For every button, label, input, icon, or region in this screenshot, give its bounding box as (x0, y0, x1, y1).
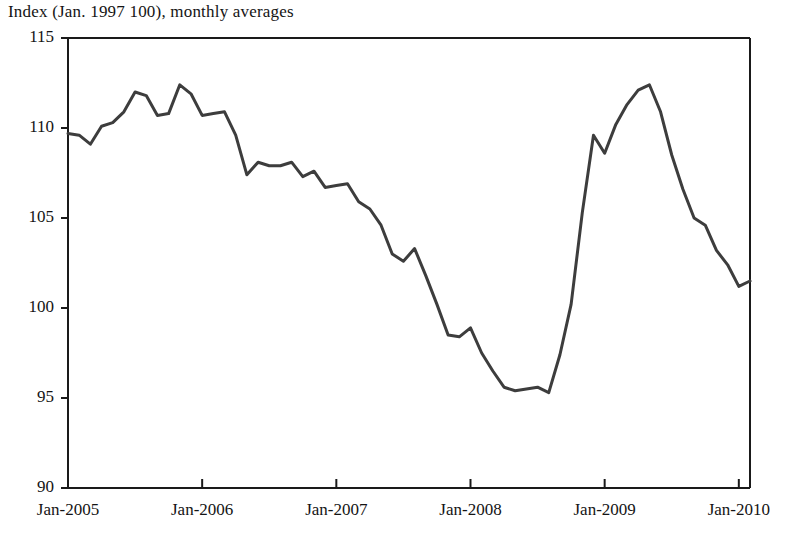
chart-plot-area (0, 0, 800, 536)
data-series-line (68, 85, 750, 393)
x-axis-tick-label: Jan-2008 (415, 500, 525, 520)
y-axis-tick-label: 90 (8, 477, 54, 497)
x-axis-tick-label: Jan-2009 (550, 500, 660, 520)
x-axis-tick-label: Jan-2010 (684, 500, 794, 520)
y-axis-tick-label: 105 (8, 207, 54, 227)
y-axis-tick-label: 95 (8, 387, 54, 407)
y-axis-tick-label: 100 (8, 297, 54, 317)
x-axis-tick-label: Jan-2005 (13, 500, 123, 520)
x-axis-ticks (68, 479, 739, 488)
x-axis-tick-label: Jan-2006 (147, 500, 257, 520)
y-axis-tick-label: 115 (8, 27, 54, 47)
y-axis-tick-label: 110 (8, 117, 54, 137)
x-axis-tick-label: Jan-2007 (281, 500, 391, 520)
y-axis-ticks (61, 38, 68, 488)
chart-container: Index (Jan. 1997 100), monthly averages … (0, 0, 800, 536)
